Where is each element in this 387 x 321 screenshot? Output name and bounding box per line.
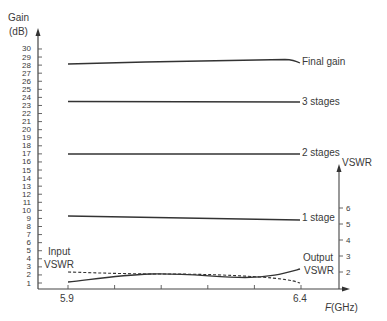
vswr-tick-label: 2	[346, 268, 350, 277]
gain-axis-arrow-icon	[36, 28, 41, 36]
final-gain-label: Final gain	[302, 56, 345, 68]
gain-axis-unit: (dB)	[9, 26, 28, 38]
vswr-axis-arrow-icon	[337, 164, 342, 172]
input-vswr-label-line2: VSWR	[44, 259, 74, 271]
frequency-axis-title: F(GHz)	[325, 302, 358, 314]
frequency-axis-arrow-icon	[342, 287, 350, 292]
one-stage-label: 1 stage	[302, 212, 335, 224]
frequency-axis-unit: (GHz)	[331, 302, 358, 313]
vswr-ticks	[339, 208, 343, 272]
final-gain-line	[68, 60, 300, 65]
one-stage-line	[68, 216, 300, 220]
three-stages-line	[68, 102, 300, 103]
vswr-tick-label: 6	[346, 204, 350, 213]
gain-axis-title: Gain	[8, 12, 29, 24]
gain-tick-label: 1	[11, 279, 31, 288]
input-vswr-label-line1: Input	[48, 246, 70, 258]
output-vswr-label-line1: Output	[303, 252, 333, 264]
output-vswr-line	[68, 269, 300, 282]
vswr-tick-label: 3	[346, 252, 350, 261]
vswr-tick-label: 5	[346, 220, 350, 229]
vswr-axis-title: VSWR	[342, 157, 372, 169]
three-stages-label: 3 stages	[302, 96, 340, 108]
output-vswr-label-line2: VSWR	[304, 265, 334, 277]
x-tick-label-end: 6.4	[293, 293, 307, 305]
two-stages-label: 2 stages	[302, 147, 340, 159]
vswr-tick-label: 4	[346, 236, 350, 245]
x-tick-label-start: 5.9	[60, 293, 74, 305]
